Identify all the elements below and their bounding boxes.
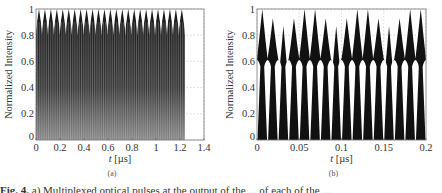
y-tick-label: 1 <box>250 4 255 15</box>
y-tick-label: 0.4 <box>242 82 256 93</box>
x-tick-label: 0.15 <box>375 142 393 153</box>
subfigure-label: (a) <box>108 169 117 178</box>
x-tick-label: 0.2 <box>53 142 66 153</box>
y-axis-label: Normalized Intensity <box>3 29 14 119</box>
data-series <box>254 9 430 140</box>
y-axis-label: Normalized Intensity <box>224 29 235 119</box>
figure-canvas: 00.20.40.60.811.21.400.20.40.60.81t [µs]… <box>0 0 442 193</box>
x-tick-label: 0.1 <box>335 142 348 153</box>
figure-caption: Fig. 4. a) Multiplexed optical pulses at… <box>0 184 442 193</box>
y-tick-label: 1 <box>29 4 34 15</box>
y-tick-label: 0.4 <box>21 82 35 93</box>
y-tick-label: 0.6 <box>21 56 34 67</box>
x-tick-label: 1.4 <box>197 142 211 153</box>
chart-b <box>254 9 430 140</box>
y-tick-label: 0.2 <box>21 108 34 119</box>
x-axis-label: t [µs] <box>330 153 353 164</box>
x-tick-label: 0.8 <box>125 142 138 153</box>
y-tick-label: 0.6 <box>242 56 255 67</box>
x-tick-label: 0.2 <box>419 142 432 153</box>
x-tick-label: 1 <box>153 142 158 153</box>
y-tick-label: 0.2 <box>242 108 255 119</box>
x-tick-label: 0.05 <box>290 142 308 153</box>
x-tick-label: 1.2 <box>173 142 186 153</box>
y-tick-label: 0 <box>29 131 34 142</box>
data-series <box>34 9 186 140</box>
x-tick-label: 0 <box>33 142 38 153</box>
y-tick-label: 0 <box>250 131 255 142</box>
x-tick-label: 0 <box>254 142 259 153</box>
y-tick-label: 0.8 <box>21 30 34 41</box>
y-tick-label: 0.8 <box>242 30 255 41</box>
caption-label: Fig. 4. <box>0 184 29 193</box>
subfigure-label: (b) <box>329 169 339 178</box>
chart-a <box>34 9 204 140</box>
x-tick-label: 0.6 <box>101 142 114 153</box>
x-tick-label: 0.4 <box>77 142 91 153</box>
x-axis-label: t [µs] <box>109 153 132 164</box>
caption-text: a) Multiplexed optical pulses at the out… <box>29 184 331 193</box>
